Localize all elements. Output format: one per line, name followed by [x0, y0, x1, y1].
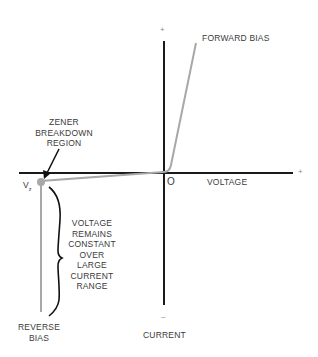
constant-voltage-note: VOLTAGE REMAINS CONSTANT OVER LARGE CURR… [64, 218, 120, 292]
origin-label: O [167, 177, 175, 188]
note-line: LARGE [64, 260, 120, 271]
zener-voltage-label: Vz [23, 180, 31, 192]
forward-bias-label: FORWARD BIAS [202, 33, 270, 44]
current-positive-sign: + [160, 26, 165, 34]
constant-voltage-brace-icon [49, 187, 62, 316]
note-line: CONSTANT [64, 239, 120, 250]
reverse-bias-line: REVERSE [16, 322, 62, 333]
zener-voltage-point [37, 178, 45, 186]
note-line: VOLTAGE [64, 218, 120, 229]
zener-region-arrow-icon [43, 149, 59, 179]
zener-region-line: BREAKDOWN [30, 128, 98, 139]
zener-region-line: ZENER [30, 117, 98, 128]
note-line: CURRENT [64, 271, 120, 282]
zener-region-label: ZENER BREAKDOWN REGION [30, 117, 98, 149]
voltage-positive-sign: + [298, 168, 303, 176]
current-negative-sign: – [161, 313, 165, 321]
note-line: RANGE [64, 281, 120, 292]
forward-bias-curve [164, 43, 196, 172]
vz-subscript: z [29, 186, 32, 192]
reverse-bias-line: BIAS [16, 333, 62, 344]
zener-characteristic-diagram [0, 0, 318, 357]
current-axis-label: CURRENT [143, 330, 186, 341]
note-line: REMAINS [64, 229, 120, 240]
voltage-axis-label: VOLTAGE [207, 177, 247, 188]
reverse-bias-label: REVERSE BIAS [16, 322, 62, 343]
zener-region-line: REGION [30, 138, 98, 149]
note-line: OVER [64, 250, 120, 261]
